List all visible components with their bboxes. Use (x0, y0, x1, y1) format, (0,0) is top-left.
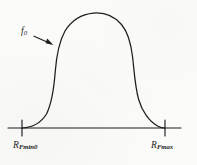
axis-tick-label-right-subscript: Fmax (157, 143, 173, 150)
axis-tick-label-left: RFmin0 (13, 140, 37, 150)
curve-label-f0-subscript: 0 (24, 29, 27, 36)
f0-arrow-head (46, 39, 54, 45)
axis-tick-label-right: RFmax (151, 140, 173, 150)
axis-tick-label-left-subscript: Fmin0 (19, 143, 37, 150)
curve-f0 (22, 13, 165, 128)
figure-container: f0 RFmin0 RFmax (0, 0, 197, 165)
curve-label-f0: f0 (21, 26, 27, 36)
